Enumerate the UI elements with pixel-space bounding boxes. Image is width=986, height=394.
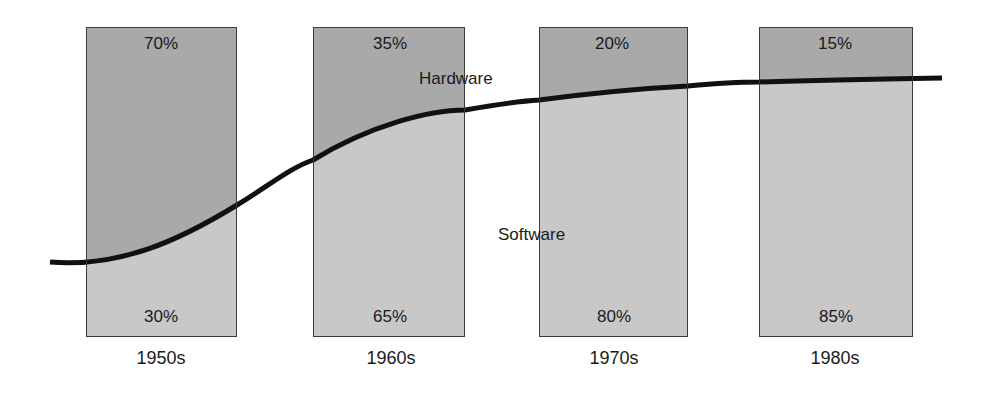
hardware-software-cost-chart: 70% 35% 20% 15% 30% 65% 80% 85% 1950s 19… — [0, 0, 986, 394]
bar-1970s — [539, 27, 688, 337]
decade-label-1950s: 1950s — [111, 348, 211, 369]
hardware-pct-1950s: 70% — [111, 34, 211, 54]
decade-label-1970s: 1970s — [564, 348, 664, 369]
hardware-pct-1980s: 15% — [785, 34, 885, 54]
decade-label-1960s: 1960s — [341, 348, 441, 369]
software-pct-1980s: 85% — [786, 307, 886, 327]
hardware-pct-1960s: 35% — [340, 34, 440, 54]
hardware-label: Hardware — [419, 69, 493, 89]
software-pct-1970s: 80% — [564, 307, 664, 327]
software-label: Software — [498, 225, 565, 245]
software-pct-1950s: 30% — [111, 307, 211, 327]
bar-1950s — [86, 27, 237, 337]
decade-label-1980s: 1980s — [785, 348, 885, 369]
software-pct-1960s: 65% — [340, 307, 440, 327]
hardware-pct-1970s: 20% — [562, 34, 662, 54]
bar-1980s — [759, 27, 913, 337]
